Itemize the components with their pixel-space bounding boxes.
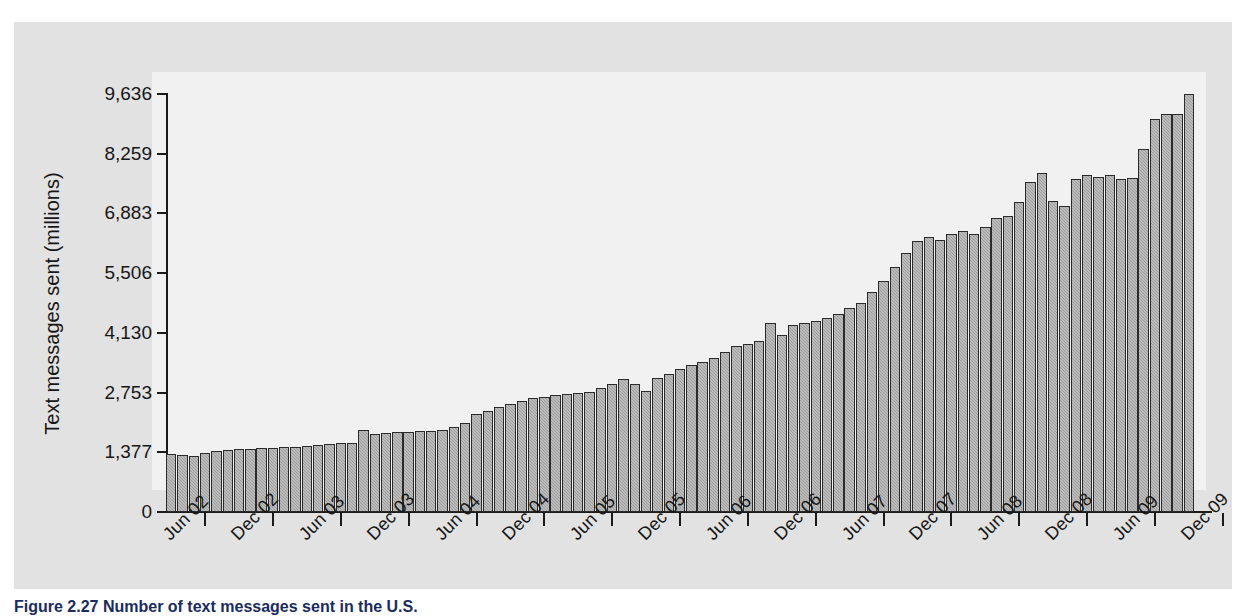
bar [1161,114,1171,512]
bar [494,407,504,512]
x-axis-tick [340,513,342,526]
bar [1003,216,1013,512]
bar [890,267,900,512]
bar [811,321,821,512]
bar [1014,202,1024,512]
y-axis-tick [157,153,168,155]
y-axis-tick [157,93,168,95]
x-axis-tick [204,513,206,526]
bar [731,346,741,512]
bar [562,394,572,512]
x-axis-tick [1222,513,1224,526]
bar [1184,94,1194,512]
bar [697,362,707,512]
bar [991,218,1001,512]
bar [641,391,651,512]
bar [584,392,594,512]
bar [618,379,628,512]
bar [901,253,911,512]
bar-series [166,94,1212,512]
bar [720,352,730,513]
bar [505,404,515,512]
bar [1127,178,1137,512]
x-axis-tick [1018,513,1020,526]
bar [290,447,300,513]
bar [607,384,617,512]
bar [573,393,583,512]
y-axis-labels-group: 01,3772,7534,1305,5066,8838,2599,636 [14,22,152,589]
bar [946,234,956,512]
bar [743,344,753,512]
x-axis-tick [747,513,749,526]
x-axis-tick [1086,513,1088,526]
x-axis-tick [950,513,952,526]
y-axis-tick-label: 1,377 [60,442,152,461]
bar [912,241,922,512]
bar [1048,201,1058,512]
bar [844,308,854,512]
bar [765,323,775,512]
bar [1071,179,1081,512]
y-axis-tick [157,272,168,274]
y-axis-tick [157,392,168,394]
figure-caption: Figure 2.27 Number of text messages sent… [14,598,1114,616]
x-axis-tick [679,513,681,526]
figure-panel: 01,3772,7534,1305,5066,8838,2599,636 Tex… [14,22,1232,589]
bar [799,323,809,512]
bar [211,451,221,512]
y-axis-tick [157,332,168,334]
y-axis-tick-label: 0 [60,502,152,521]
bar [517,401,527,512]
bar [234,449,244,512]
y-axis-tick-label: 4,130 [60,323,152,342]
y-axis-tick-label: 6,883 [60,203,152,222]
x-axis-tick [272,513,274,526]
x-axis-tick [815,513,817,526]
bar [437,430,447,512]
bar [223,450,233,512]
bar [1150,119,1160,512]
bar [1116,179,1126,512]
bar [358,430,368,512]
y-axis-tick [157,451,168,453]
bar [550,395,560,512]
bar [867,292,877,512]
y-axis-tick [157,511,168,513]
bar [777,335,787,512]
bar [969,234,979,512]
bar [415,431,425,512]
x-axis-tick [883,513,885,526]
y-axis-tick-label: 9,636 [60,84,152,103]
bar [958,231,968,512]
bar [935,240,945,512]
bar [1105,175,1115,512]
x-axis-tick [408,513,410,526]
y-axis-title: Text messages sent (millions) [41,134,64,474]
bar [1059,206,1069,512]
bar [370,434,380,512]
bar [709,358,719,512]
bar [630,384,640,512]
bar [833,314,843,512]
x-axis-tick [543,513,545,526]
y-axis-tick-label: 2,753 [60,383,152,402]
bar [652,378,662,512]
bar [166,454,176,512]
bar [980,227,990,512]
bar [856,303,866,512]
bar [426,431,436,512]
bar [1082,175,1092,512]
bar [483,411,493,512]
bar [1025,182,1035,512]
bar [754,341,764,512]
bar [924,237,934,512]
y-axis-tick [157,212,168,214]
bar [822,318,832,512]
bar [1093,177,1103,512]
bar [302,446,312,512]
bar [1138,149,1148,512]
bar [686,365,696,512]
y-axis-tick-label: 8,259 [60,144,152,163]
y-axis-tick-label: 5,506 [60,263,152,282]
x-axis-tick [611,513,613,526]
